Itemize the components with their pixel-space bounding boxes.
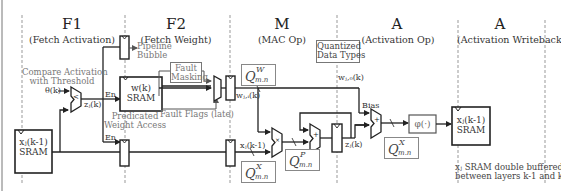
quant-sup: W	[256, 65, 264, 74]
w-sram-label: w(k) SRAM	[120, 83, 162, 104]
add-symbol: +	[313, 132, 319, 139]
quant-sup: X	[399, 138, 405, 147]
x-sram-label: xⱼ(k-1) SRAM	[15, 137, 52, 158]
compare-annotation: Compare Activation with Threshold	[22, 68, 102, 86]
stage-a-writeback-title: A	[468, 17, 532, 32]
stage-f1-title: F1	[40, 17, 104, 32]
compare-symbol: <	[73, 94, 79, 101]
stage-a-subtitle: (Activation Op)	[360, 35, 436, 45]
stage-a-writeback-subtitle: (Activation Writeback)	[457, 35, 545, 45]
stage-a-title: A	[365, 17, 429, 32]
stage-f2-title: F2	[144, 17, 208, 32]
z-signal-label: zⱼ(k)	[84, 101, 101, 109]
quantized-types-box: Quantized Data Types	[316, 40, 360, 63]
enable-label: En	[105, 91, 116, 99]
w-j0-signal-label: wⱼ,₀(k)	[338, 74, 364, 82]
output-sram-label: xⱼ(k-1) SRAM	[452, 115, 490, 136]
bias-label: Bias	[362, 102, 379, 110]
quant-sup: P	[300, 150, 305, 159]
pipeline-register	[226, 140, 235, 166]
quant-sub: m.n	[255, 173, 268, 181]
theta-signal-label: θ(k)	[45, 87, 61, 95]
quant-x-out-box: Q X m.n	[384, 137, 419, 159]
multiply-symbol: ×	[275, 137, 280, 143]
fault-masking-box: Fault Masking	[170, 62, 202, 83]
pipeline-bubble-annotation: Pipeline Bubble	[137, 42, 177, 60]
stage-f1-subtitle: (Fetch Activation)	[27, 35, 117, 45]
quant-p-box: Q P m.n	[285, 149, 320, 171]
pipeline-register	[120, 140, 129, 166]
weight-mux	[214, 76, 221, 101]
w-ji-signal-label: wⱼ,ᵢ(k)	[236, 92, 260, 100]
stage-m-title: M	[250, 17, 314, 32]
bias-add-symbol: +	[374, 117, 380, 124]
fault-flags-annotation: Fault Flags (late)	[160, 110, 230, 119]
stage-m-subtitle: (MAC Op)	[250, 35, 314, 45]
quant-sub: m.n	[299, 161, 312, 169]
quant-sup: X	[256, 162, 262, 171]
quant-sub: m.n	[398, 149, 411, 157]
quant-x-in-box: Q X m.n	[241, 161, 276, 183]
enable-label: En	[105, 134, 116, 142]
pipeline-diagram: F1 (Fetch Activation) F2 (Fetch Weight) …	[0, 0, 561, 191]
double-buffered-annotation: xⱼ SRAM double buffered between layers k…	[455, 163, 547, 181]
x-km1-signal-label: xⱼ(k-1)	[240, 142, 265, 150]
z-accum-signal-label: zⱼ(k)	[345, 141, 362, 149]
quant-sub: m.n	[255, 76, 268, 84]
quant-w-box: Q W m.n	[241, 64, 276, 86]
phi-label: φ(·)	[409, 119, 436, 129]
